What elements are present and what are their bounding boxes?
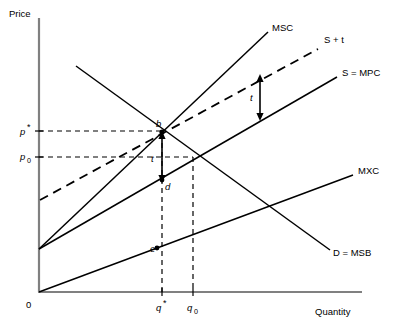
point-e-marker: [155, 246, 160, 251]
s-plus-t-curve-label: S + t: [324, 34, 344, 45]
q-zero-sub: 0: [194, 307, 198, 316]
x-axis-label: Quantity: [315, 306, 351, 317]
p-zero-text: p: [19, 151, 25, 162]
point-e-label: e: [150, 243, 155, 254]
q-star-text: q: [156, 302, 162, 313]
d-msb-curve-label: D = MSB: [333, 247, 371, 258]
q-zero-text: q: [187, 302, 193, 313]
p-zero-sub: 0: [27, 156, 31, 165]
economics-diagram: Price Quantity 0 MSC S + t S = MPC MXC D…: [0, 0, 395, 328]
q-star-sup: *: [163, 298, 167, 308]
tax-arrow-right-head-up: [256, 74, 263, 82]
mxc-curve: [39, 175, 353, 292]
p-star-text: p: [19, 126, 25, 137]
y-axis-label: Price: [9, 8, 31, 19]
point-d-label: d: [165, 181, 171, 192]
p-star-sup: *: [27, 122, 31, 132]
mxc-curve-label: MXC: [358, 165, 379, 176]
p-zero-axis-label: p 0: [19, 151, 31, 165]
diagram-canvas: Price Quantity 0 MSC S + t S = MPC MXC D…: [0, 0, 395, 328]
tax-arrow-right-label: t: [250, 92, 253, 103]
q-star-axis-label: q *: [156, 298, 167, 313]
point-d-marker: [160, 178, 165, 183]
axis-ticks-group: [35, 131, 193, 296]
q-zero-axis-label: q 0: [187, 302, 198, 316]
p-star-axis-label: p *: [19, 122, 31, 137]
s-plus-t-curve: [40, 49, 318, 200]
origin-label: 0: [26, 299, 31, 310]
curves-group: [39, 32, 353, 292]
msc-curve-label: MSC: [272, 22, 293, 33]
tax-arrow-left-label: t: [151, 153, 154, 164]
msc-curve: [39, 32, 268, 249]
guide-lines-group: [39, 131, 193, 292]
equilibrium-points-group: [155, 129, 165, 250]
point-b-marker: [159, 129, 164, 134]
s-mpc-curve-label: S = MPC: [342, 67, 380, 78]
point-b-label: b: [156, 118, 161, 129]
